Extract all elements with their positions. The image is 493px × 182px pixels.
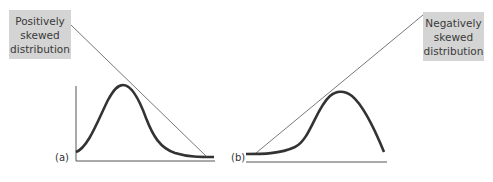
skew-diagram (0, 0, 493, 182)
annotation-line: distribution (423, 44, 484, 58)
annotation-line: skewed (423, 30, 484, 44)
annotation-line: distribution (9, 42, 71, 56)
positively-skewed-label: Positively skewed distribution (9, 10, 71, 59)
panel-a-curve (76, 85, 214, 157)
annotation-line: Negatively (423, 16, 484, 30)
panel-b-label: (b) (231, 152, 245, 163)
panel-b-curve (246, 92, 384, 154)
panel-b-pointer-line (256, 15, 423, 153)
negatively-skewed-label: Negatively skewed distribution (423, 12, 484, 61)
panel-a-label: (a) (55, 152, 69, 163)
annotation-line: skewed (9, 28, 71, 42)
panel-a-pointer-line (71, 25, 207, 157)
annotation-line: Positively (9, 14, 71, 28)
